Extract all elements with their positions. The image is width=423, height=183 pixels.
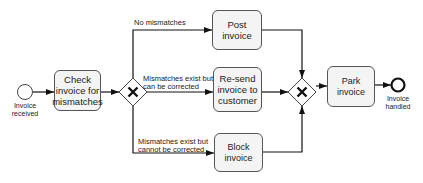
flow-label-correctable: Mismatches exist but can be corrected: [143, 75, 213, 91]
task-label-line: Re-send: [217, 73, 257, 84]
task-label-line: customer: [217, 95, 257, 106]
task-label-line: invoice to: [217, 84, 257, 95]
start-event-label: Invoice received: [8, 102, 42, 118]
task-park-invoice[interactable]: Park invoice: [327, 66, 375, 107]
exclusive-gateway-merge-icon: [288, 78, 316, 106]
end-event-label: Invoice handled: [382, 95, 414, 111]
start-event-label-line: received: [8, 110, 42, 118]
start-event-label-line: Invoice: [8, 102, 42, 110]
task-check-invoice[interactable]: Check invoice for mismatches: [54, 70, 101, 111]
flow-label-line: cannot be corrected: [138, 146, 208, 154]
task-label-line: Check: [52, 74, 103, 85]
task-resend-invoice[interactable]: Re-send invoice to customer: [213, 67, 262, 112]
task-block-invoice[interactable]: Block invoice: [214, 133, 263, 172]
task-label: Park invoice: [328, 76, 374, 98]
task-post-invoice[interactable]: Post invoice: [212, 10, 262, 50]
task-label: Post invoice: [213, 19, 261, 41]
flow-label-no-mismatches: No mismatches: [134, 19, 186, 27]
task-label: Block invoice: [215, 142, 262, 164]
end-event-label-line: handled: [382, 103, 414, 111]
end-event-label-line: Invoice: [382, 95, 414, 103]
flow-label-line: can be corrected: [143, 83, 213, 91]
flow-label-not-correctable: Mismatches exist but cannot be corrected: [138, 138, 208, 154]
end-event-icon: [392, 79, 405, 92]
flow-label-text: No mismatches: [134, 18, 186, 27]
task-label-line: mismatches: [52, 96, 103, 107]
start-event-icon: [18, 85, 33, 100]
task-label-line: invoice for: [52, 85, 103, 96]
